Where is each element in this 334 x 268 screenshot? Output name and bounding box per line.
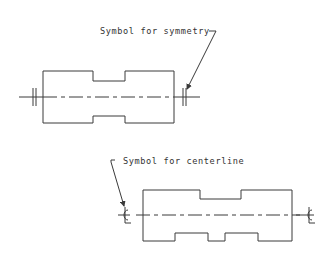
centerline-label: Symbol for centerline [123,156,244,166]
technical-drawing: Symbol for symmetry Symbol for centerlin… [0,0,334,268]
symmetry-leader-arrow [187,31,216,89]
centerline-leader-arrow [111,160,124,206]
symmetry-figure: Symbol for symmetry [19,26,216,123]
symmetry-label: Symbol for symmetry [100,26,210,36]
centerline-figure: Symbol for centerline [111,156,315,241]
